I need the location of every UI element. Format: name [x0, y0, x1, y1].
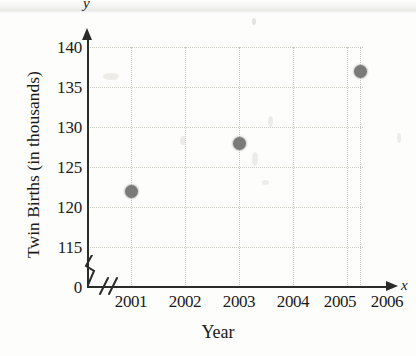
gridline-y-125	[88, 167, 363, 168]
x-tick-2002: 2002	[158, 292, 212, 311]
x-tick-2003: 2003	[212, 292, 266, 311]
chart-figure: y x 140 135 130 125 120 115 0 2001 2002 …	[0, 0, 416, 356]
y-axis-variable-letter: y	[83, 0, 90, 12]
data-point-2003	[233, 137, 246, 150]
x-tick-2004: 2004	[266, 292, 320, 311]
paper-smudge	[397, 133, 401, 143]
x-axis-line	[88, 286, 388, 288]
gridline-x-2003	[239, 47, 240, 287]
gridline-x-2001	[131, 47, 132, 287]
gridline-x-2006	[360, 47, 361, 287]
x-tick-2005: 2005	[313, 292, 367, 311]
gridline-x-2004	[293, 47, 294, 287]
y-axis-line	[87, 38, 89, 288]
gridline-y-135	[88, 87, 363, 88]
x-tick-2001: 2001	[104, 292, 158, 311]
gridline-y-130	[88, 127, 363, 128]
gridline-y-140	[88, 47, 363, 48]
gridline-y-115	[88, 247, 363, 248]
plot-area	[88, 47, 363, 287]
x-axis-title: Year	[158, 322, 278, 343]
scan-speck	[252, 18, 256, 25]
x-tick-2006: 2006	[360, 292, 414, 311]
gridline-y-120	[88, 207, 363, 208]
y-axis-arrow	[82, 28, 92, 40]
gridline-x-2005	[347, 47, 348, 287]
y-axis-title: Twin Births (in thousands)	[23, 40, 44, 290]
data-point-2006	[354, 65, 367, 78]
gridline-x-2002	[185, 47, 186, 287]
x-axis-arrow	[386, 281, 398, 291]
data-point-2001	[125, 185, 138, 198]
